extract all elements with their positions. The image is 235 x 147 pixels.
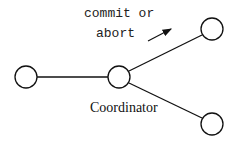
coordinator-node <box>108 66 130 88</box>
participant-node-top-right <box>201 18 223 40</box>
participant-node-bottom-right <box>201 113 223 135</box>
participant-node-left <box>15 66 37 88</box>
message-label-line1: commit or <box>84 6 154 21</box>
edge-coordinator-to-top-right <box>129 35 202 71</box>
coordinator-diagram: commit or abort Coordinator <box>0 0 235 147</box>
coordinator-label: Coordinator <box>90 100 158 115</box>
message-label-line2: abort <box>96 26 135 41</box>
message-arrow-icon <box>148 29 171 41</box>
